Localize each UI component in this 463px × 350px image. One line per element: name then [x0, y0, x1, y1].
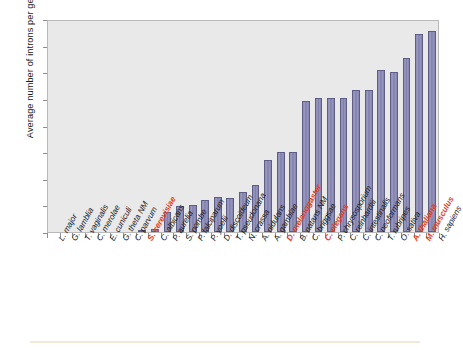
- bar: [415, 34, 423, 232]
- y-axis-tick-mark: [43, 180, 47, 181]
- y-axis-tick-mark: [43, 20, 47, 21]
- bar-cell: [186, 21, 199, 232]
- y-axis-tick-mark: [43, 100, 47, 101]
- bar-cell: [224, 21, 237, 232]
- y-axis-tick-mark: [43, 206, 47, 207]
- bar-cell: [98, 21, 111, 232]
- x-axis-labels: L. majorG. lambliaT. vaginalisC. merolae…: [47, 238, 439, 342]
- bar-cell: [274, 21, 287, 232]
- bar-cell: [73, 21, 86, 232]
- bar-cell: [86, 21, 99, 232]
- y-axis-tick-mark: [43, 127, 47, 128]
- bar-cell: [48, 21, 61, 232]
- bar-cell: [149, 21, 162, 232]
- bar-cell: [199, 21, 212, 232]
- bar-cell: [61, 21, 74, 232]
- footer-divider: [30, 341, 420, 343]
- y-axis-title: Average number of introns per gene: [25, 0, 35, 173]
- y-axis-tick-mark: [43, 47, 47, 48]
- y-axis-tick-mark: [43, 73, 47, 74]
- bar-cell: [413, 21, 426, 232]
- y-axis-tick-mark: [43, 233, 47, 234]
- bar-cell: [123, 21, 136, 232]
- bar-cell: [425, 21, 438, 232]
- bar-cell: [111, 21, 124, 232]
- bar-cell: [287, 21, 300, 232]
- y-axis-tick-mark: [43, 153, 47, 154]
- bar-cell: [337, 21, 350, 232]
